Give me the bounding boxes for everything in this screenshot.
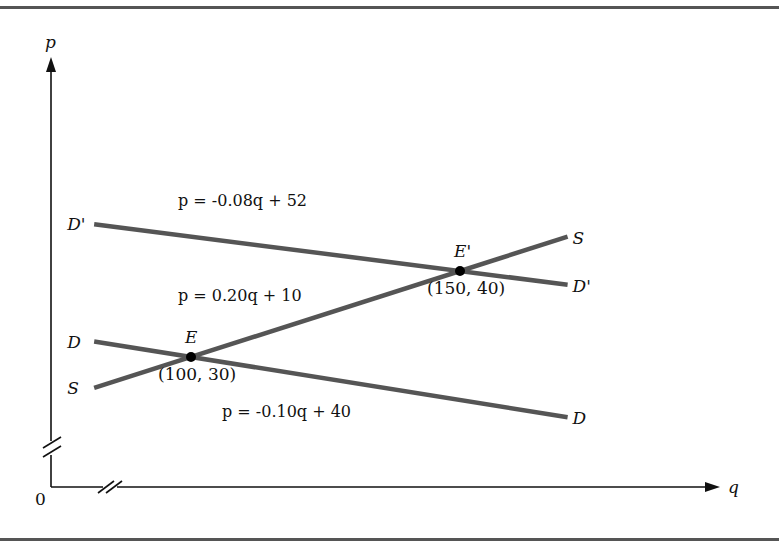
- q-axis-arrow-icon: [705, 482, 720, 492]
- supply-demand-chart: p q 0 D'D'DDSS E(100, 30)E'(150, 40) p =…: [0, 0, 779, 543]
- curve-label-right-demand: D: [572, 408, 587, 428]
- equilibrium-point-e-prime: [455, 266, 465, 276]
- curve-label-left-demand-shifted: D': [66, 214, 85, 234]
- curve-label-left-demand: D: [66, 332, 81, 352]
- equilibrium-label-e-prime: E': [453, 241, 471, 261]
- equation-label-s: p = 0.20q + 10: [178, 286, 302, 305]
- p-axis-arrow-icon: [46, 57, 56, 72]
- equilibrium-coords-e: (100, 30): [158, 364, 236, 384]
- curve-label-left-supply: S: [67, 378, 79, 398]
- curve-demand-shifted: [94, 224, 567, 285]
- axes: p q 0: [35, 32, 739, 509]
- equilibrium-coords-e-prime: (150, 40): [427, 278, 505, 298]
- p-axis-label: p: [45, 32, 56, 52]
- curve-label-right-demand-shifted: D': [572, 276, 591, 296]
- curves: D'D'DDSS: [66, 214, 591, 428]
- q-axis-label: q: [728, 477, 739, 497]
- equilibrium-label-e: E: [184, 327, 198, 347]
- equation-label-d: p = -0.10q + 40: [222, 402, 351, 421]
- p-axis-break-2: [43, 446, 61, 457]
- origin-label: 0: [35, 489, 46, 509]
- equilibrium-point-e: [186, 352, 196, 362]
- p-axis-break-1: [43, 437, 61, 448]
- curve-label-right-supply: S: [573, 228, 585, 248]
- equation-label-d-prime: p = -0.08q + 52: [178, 191, 307, 210]
